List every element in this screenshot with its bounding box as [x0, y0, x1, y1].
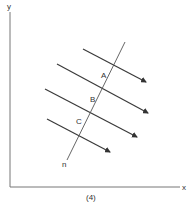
line-n-label: n: [62, 160, 66, 169]
diagram-canvas: y x n A B C (4): [0, 0, 189, 205]
point-c-label: C: [76, 117, 82, 126]
arrow-1: [83, 49, 146, 82]
point-b-label: B: [90, 95, 95, 104]
x-axis-label: x: [182, 183, 186, 192]
point-a-label: A: [101, 71, 107, 80]
y-axis-label: y: [7, 2, 11, 11]
line-n: [67, 42, 125, 160]
figure-caption: (4): [86, 193, 96, 202]
